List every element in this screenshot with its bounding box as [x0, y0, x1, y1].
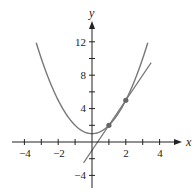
y-tick-label: 12 [75, 36, 86, 48]
x-tick-label: 4 [157, 147, 163, 159]
y-tick-label: 4 [81, 102, 87, 114]
x-tick-label: −2 [53, 147, 65, 159]
x-tick-label: 2 [123, 147, 129, 159]
function-plot: −4 −2 2 4 x 12 8 4 −4 y [0, 0, 196, 194]
y-tick-label: −4 [74, 169, 86, 181]
data-point [106, 123, 111, 128]
y-tick-label: 8 [81, 69, 87, 81]
y-axis-arrow-icon [89, 21, 95, 29]
y-axis-label: y [88, 6, 95, 20]
x-axis: −4 −2 2 4 x [12, 135, 192, 159]
x-axis-label: x [185, 135, 192, 149]
x-axis-arrow-icon [174, 139, 182, 145]
data-point [123, 98, 128, 103]
secant-line [84, 63, 152, 163]
x-tick-label: −4 [19, 147, 31, 159]
